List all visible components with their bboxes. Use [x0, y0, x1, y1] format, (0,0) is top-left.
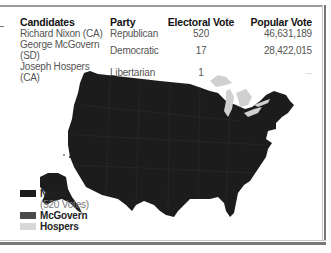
legend-label: McGovern: [40, 210, 87, 221]
legend-label: Nixon: [40, 188, 67, 199]
header-party: Party: [110, 17, 162, 28]
popular-votes: 28,422,015: [240, 39, 312, 61]
header-electoral-vote: Electoral Vote: [162, 17, 240, 28]
candidate-name: George McGovern (SD): [20, 39, 110, 61]
table-row: Richard Nixon (CA) Republican 520 46,631…: [20, 28, 312, 39]
legend-label: Hospers: [40, 221, 79, 232]
legend-item-hospers: Hospers: [20, 221, 89, 232]
nixon-swatch: [20, 190, 36, 197]
popular-votes: 46,631,189: [240, 28, 312, 39]
legend-item-mcgovern: McGovern: [20, 210, 89, 221]
header-popular-vote: Popular Vote: [240, 17, 312, 28]
frame-right-border: [322, 5, 326, 245]
party-name: Republican: [110, 28, 162, 39]
mcgovern-swatch: [20, 212, 36, 219]
map-legend: Nixon (520 Votes) McGovern Hospers: [20, 188, 89, 232]
contiguous-us-shape: [68, 71, 294, 217]
legend-item-nixon: Nixon: [20, 188, 89, 199]
party-name: Democratic: [110, 39, 162, 61]
electoral-votes: 17: [162, 39, 240, 61]
electoral-votes: 520: [162, 28, 240, 39]
frame-tick: [0, 26, 4, 27]
table-header-row: Candidates Party Electoral Vote Popular …: [20, 17, 312, 28]
candidate-name: Richard Nixon (CA): [20, 28, 110, 39]
frame-top-border: [0, 5, 326, 7]
hospers-swatch: [20, 223, 36, 230]
legend-sub-label: (520 Votes): [20, 199, 89, 210]
frame-bottom-border: [0, 240, 326, 245]
table-row: George McGovern (SD) Democratic 17 28,42…: [20, 39, 312, 61]
header-candidates: Candidates: [20, 17, 110, 28]
